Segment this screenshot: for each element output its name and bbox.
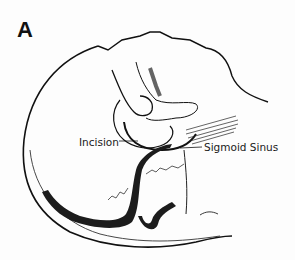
finger-shading — [150, 68, 160, 96]
small-mark — [200, 212, 218, 215]
skull-inner-contour — [30, 150, 220, 241]
bone-edge-lower — [108, 188, 128, 200]
incision-label: Incision — [79, 137, 119, 148]
mastoid-edge — [184, 150, 187, 214]
medical-figure: A Incis — [0, 0, 295, 260]
sigmoid-sinus-label: Sigmoid Sinus — [204, 142, 278, 153]
muscle-fibers — [186, 116, 238, 144]
bone-edge — [146, 164, 184, 174]
sigmoid-sinus — [42, 144, 172, 228]
sinus-bend — [138, 202, 176, 229]
sigmoid-leader — [180, 147, 202, 148]
head-top-contour — [98, 32, 268, 102]
skull-illustration — [0, 0, 295, 260]
hand — [136, 62, 198, 120]
finger — [112, 70, 152, 116]
